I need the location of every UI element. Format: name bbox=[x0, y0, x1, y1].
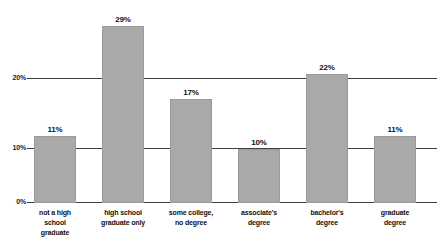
plot-area: 11% 29% 17% 10% 22% 11% bbox=[34, 14, 437, 203]
y-axis-label-0: 0% bbox=[0, 198, 26, 206]
y-tick-stub-0 bbox=[27, 202, 34, 203]
y-axis-label-20: 20% bbox=[0, 74, 26, 82]
bar-chart: 20% 10% 0% 11% 29% 17% 10% 22% 11% not a… bbox=[0, 0, 448, 252]
bar-associates-degree[interactable] bbox=[238, 149, 280, 203]
y-tick-stub-20 bbox=[27, 78, 34, 79]
gridline-20 bbox=[34, 78, 437, 79]
bar-some-college-no-degree[interactable] bbox=[170, 99, 212, 203]
bar-value-not-a-high-school-graduate: 11% bbox=[34, 125, 76, 134]
y-tick-stub-10 bbox=[27, 148, 34, 149]
bar-value-bachelors-degree: 22% bbox=[306, 63, 348, 72]
bar-bachelors-degree[interactable] bbox=[306, 74, 348, 203]
bar-graduate-degree[interactable] bbox=[374, 136, 416, 203]
bar-value-high-school-graduate-only: 29% bbox=[102, 15, 144, 24]
y-axis-label-10: 10% bbox=[0, 144, 26, 152]
bar-value-some-college-no-degree: 17% bbox=[170, 88, 212, 97]
bar-value-graduate-degree: 11% bbox=[374, 125, 416, 134]
category-label-graduate-degree: graduate degree bbox=[354, 208, 436, 228]
bar-not-a-high-school-graduate[interactable] bbox=[34, 136, 76, 203]
bar-value-associates-degree: 10% bbox=[238, 138, 280, 147]
bar-high-school-graduate-only[interactable] bbox=[102, 26, 144, 203]
